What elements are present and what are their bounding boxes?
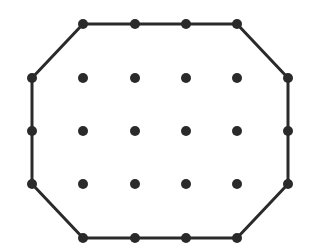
boundary-dot [130, 233, 140, 243]
interior-dot [78, 126, 88, 136]
boundary-dot [78, 19, 88, 29]
boundary-dot [27, 179, 37, 189]
interior-dot [181, 179, 191, 189]
interior-dot [78, 179, 88, 189]
boundary-dot [283, 179, 293, 189]
interior-dot [130, 126, 140, 136]
boundary-dot [130, 19, 140, 29]
boundary-dot [181, 233, 191, 243]
interior-dot [181, 73, 191, 83]
interior-dots [78, 73, 242, 189]
boundary-dot [283, 126, 293, 136]
interior-dot [181, 126, 191, 136]
boundary-dot [283, 73, 293, 83]
dot-grid-octagon-diagram [0, 0, 313, 250]
interior-dot [232, 126, 242, 136]
interior-dot [232, 73, 242, 83]
octagon-outline [32, 24, 288, 238]
boundary-dot [27, 126, 37, 136]
boundary-dot [232, 233, 242, 243]
boundary-dot [78, 233, 88, 243]
interior-dot [130, 179, 140, 189]
boundary-dots [27, 19, 293, 243]
boundary-dot [181, 19, 191, 29]
boundary-dot [232, 19, 242, 29]
interior-dot [232, 179, 242, 189]
boundary-dot [27, 73, 37, 83]
interior-dot [130, 73, 140, 83]
interior-dot [78, 73, 88, 83]
